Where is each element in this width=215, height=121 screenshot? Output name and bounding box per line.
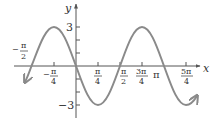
svg-text:π: π bbox=[95, 67, 100, 76]
svg-text:−: − bbox=[12, 45, 19, 54]
x-tick-label-pi-2: π 2 bbox=[120, 67, 128, 86]
x-tick-label-pi: π bbox=[153, 69, 160, 80]
y-axis-label: y bbox=[64, 2, 72, 15]
sine-graph: y x 3 −3 − π 2 − π 4 π 4 π 2 3π 4 π 5π 4 bbox=[0, 0, 215, 121]
sine-curve-left-tail bbox=[25, 66, 32, 82]
x-axis-label: x bbox=[203, 62, 210, 75]
svg-text:π: π bbox=[51, 67, 56, 76]
y-tick-label-neg3: −3 bbox=[58, 99, 74, 112]
svg-text:4: 4 bbox=[95, 77, 100, 86]
svg-text:π: π bbox=[21, 41, 26, 50]
svg-text:−: − bbox=[43, 70, 50, 79]
y-tick-label-3: 3 bbox=[66, 21, 73, 34]
x-tick-label-neg-pi-4: − π 4 bbox=[43, 67, 58, 86]
svg-text:3π: 3π bbox=[136, 67, 146, 76]
x-tick-label-pi-4: π 4 bbox=[94, 67, 102, 86]
svg-text:2: 2 bbox=[121, 77, 126, 86]
x-tick-label-3pi-4: 3π 4 bbox=[136, 67, 148, 86]
svg-text:4: 4 bbox=[184, 77, 189, 86]
svg-text:4: 4 bbox=[139, 77, 144, 86]
svg-text:2: 2 bbox=[21, 52, 26, 61]
svg-text:5π: 5π bbox=[181, 67, 191, 76]
svg-text:π: π bbox=[121, 67, 126, 76]
x-tick-label-neg-pi-2: − π 2 bbox=[12, 41, 28, 61]
x-tick-label-5pi-4: 5π 4 bbox=[181, 67, 193, 86]
svg-text:4: 4 bbox=[51, 77, 56, 86]
